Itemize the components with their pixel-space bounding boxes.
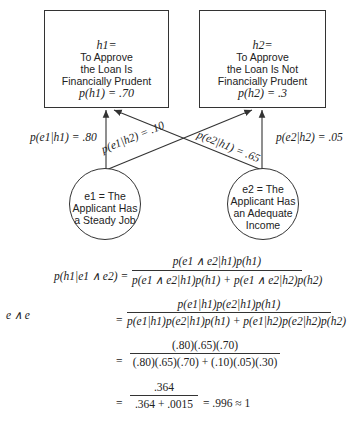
h1-prior: p(h1) = .70 [45, 87, 168, 99]
evidence-e1-node: e1 = The Applicant Has a Steady Job [69, 168, 141, 240]
h2-var: h2= [200, 39, 325, 51]
fraction-2-denominator: p(e1|h1)p(e2|h1)p(h1) + p(e1|h2)p(e2|h2)… [127, 313, 331, 327]
fraction-1-denominator: p(e1 ∧ e2|h1)p(h1) + p(e1 ∧ e2|h2)p(h2) [132, 271, 302, 287]
fraction-1-numerator: p(e1 ∧ e2|h1)p(h1) [132, 254, 302, 271]
h1-line-1: To Approve [45, 51, 168, 63]
fraction-4: .364 .364 + .0015 [130, 381, 198, 410]
fraction-2-numerator: p(e1|h1)p(e2|h1)p(h1) [127, 298, 331, 313]
fraction-4-numerator: .364 [130, 381, 198, 396]
fraction-3-denominator: (.80)(.65)(.70) + (.10)(.05)(.30) [130, 354, 280, 368]
fraction-2: p(e1|h1)p(e2|h1)p(h1) p(e1|h1)p(e2|h1)p(… [127, 298, 331, 327]
e1-line-1: Applicant Has [70, 202, 140, 214]
equals-4: = [116, 397, 123, 409]
side-label: e ∧ e [6, 308, 30, 322]
e2-line-1: Applicant Has [228, 195, 298, 207]
hypothesis-h2-box: h2= To Approve the Loan Is Not Financial… [199, 10, 326, 108]
fraction-1: p(e1 ∧ e2|h1)p(h1) p(e1 ∧ e2|h1)p(h1) + … [132, 254, 302, 287]
edge-label-e1-h1: p(e1|h1) = .80 [30, 131, 97, 143]
h1-var: h1= [45, 39, 168, 51]
h2-line-2: the Loan Is Not [200, 63, 325, 75]
edge-label-e2-h2: p(e2|h2) = .05 [276, 131, 343, 143]
h1-line-2: the Loan Is [45, 63, 168, 75]
posterior-lhs: p(h1|e1 ∧ e2) = [54, 269, 128, 283]
evidence-e2-node: e2 = The Applicant Has an Adequate Incom… [227, 168, 299, 240]
result: = .996 ≈ 1 [203, 397, 250, 409]
e2-line-2: an Adequate [228, 207, 298, 219]
fraction-4-denominator: .364 + .0015 [130, 396, 198, 410]
e1-line-2: a Steady Job [70, 214, 140, 226]
h2-prior: p(h2) = .3 [200, 87, 325, 99]
equals-3: = [116, 355, 123, 367]
equals-2: = [116, 314, 123, 326]
fraction-3: (.80)(.65)(.70) (.80)(.65)(.70) + (.10)(… [130, 339, 280, 368]
h2-line-1: To Approve [200, 51, 325, 63]
e2-var: e2 = The [228, 183, 298, 195]
e1-var: e1 = The [70, 190, 140, 202]
e2-line-3: Income [228, 219, 298, 231]
fraction-3-numerator: (.80)(.65)(.70) [130, 339, 280, 354]
hypothesis-h1-box: h1= To Approve the Loan Is Financially P… [44, 10, 169, 108]
